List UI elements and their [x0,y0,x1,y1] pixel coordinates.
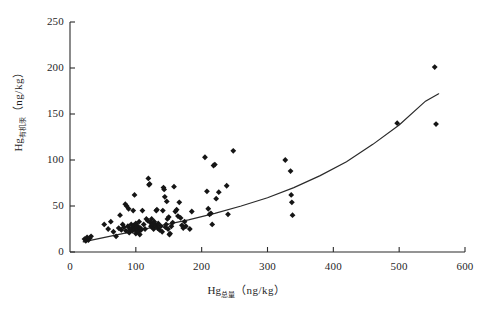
data-point-marker [282,157,288,163]
x-tick-label: 100 [116,260,156,272]
x-axis-title-units: （ng/kg） [235,284,286,296]
y-axis-title-subscript: 有机汞 [19,117,27,138]
data-point-marker [108,219,114,225]
x-tick-label: 0 [50,260,90,272]
x-axis-title-subscript: 总量 [221,291,235,299]
x-tick-label: 300 [248,260,288,272]
trend-line-path [83,94,439,242]
x-axis-title: Hg总量（ng/kg） [0,281,493,299]
y-axis-title-units: （ng/kg） [12,67,24,118]
data-point-marker [432,64,438,70]
axis-lines [70,22,465,252]
data-point-marker [140,208,146,214]
fit-trend-line [83,94,439,242]
data-point-marker [290,212,296,218]
data-point-marker [202,154,208,160]
data-points-group [82,64,439,244]
data-point-marker [225,211,231,217]
data-point-marker [145,176,151,182]
data-point-marker [171,184,177,190]
data-point-marker [209,222,215,228]
y-axis-title-prefix: Hg [12,138,24,151]
data-point-marker [230,148,236,154]
data-point-marker [213,196,219,202]
data-point-marker [288,168,294,174]
data-point-marker [204,188,210,194]
x-tick-label: 200 [182,260,222,272]
data-point-marker [111,229,117,235]
x-tick-label: 400 [313,260,353,272]
y-tick-label: 100 [30,153,64,165]
y-tick-label: 0 [30,245,64,257]
data-point-marker [433,121,439,127]
y-tick-label: 50 [30,199,64,211]
y-axis-ticks [70,22,75,252]
data-point-marker [160,208,166,214]
data-point-marker [176,199,182,205]
y-tick-label: 150 [30,107,64,119]
data-point-marker [205,206,211,212]
x-axis-ticks [136,247,465,252]
data-point-marker [216,189,222,195]
x-axis-title-prefix: Hg [207,284,220,296]
data-point-marker [141,222,147,228]
data-point-marker [142,226,148,232]
y-axis-title: Hg有机汞（ng/kg） [9,29,27,189]
data-point-marker [117,212,123,218]
x-tick-label: 600 [445,260,485,272]
scatter-chart-figure: 050100150200250 0100200300400500600 Hg总量… [0,0,493,309]
data-point-marker [105,226,111,232]
data-point-marker [189,209,195,215]
data-point-marker [288,192,294,198]
y-tick-label: 200 [30,61,64,73]
y-tick-label: 250 [30,15,64,27]
x-tick-label: 500 [379,260,419,272]
data-point-marker [289,199,295,205]
data-point-marker [224,183,230,189]
data-point-marker [132,192,138,198]
data-point-marker [101,222,107,228]
